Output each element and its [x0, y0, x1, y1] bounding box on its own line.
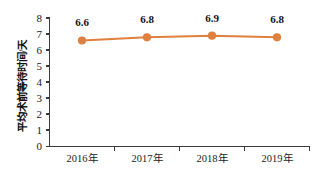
y-tick-label: 1: [37, 124, 43, 136]
data-labels: 6.6 6.8 6.9 6.8: [75, 12, 284, 29]
y-tick-label: 2: [37, 108, 43, 120]
x-tick-label: 2016年: [67, 152, 98, 164]
series-line: [82, 36, 277, 41]
y-axis-tick-labels: 8 7 6 5 4 3 2 1 0: [37, 12, 43, 152]
line-chart: 平均术前等待时间/天 8 7 6 5 4 3 2 1 0: [0, 0, 315, 176]
y-axis-title: 平均术前等待时间/天: [16, 39, 28, 133]
x-tick-label: 2018年: [197, 152, 228, 164]
y-tick-label: 0: [37, 140, 43, 152]
y-tick-label: 3: [37, 92, 43, 104]
data-point-marker: [78, 36, 86, 44]
y-tick-label: 6: [37, 44, 43, 56]
x-axis-tick-labels: 2016年 2017年 2018年 2019年: [67, 152, 293, 164]
data-point-marker: [273, 33, 281, 41]
y-tick-label: 8: [37, 12, 43, 24]
y-tick-label: 4: [37, 76, 43, 88]
y-tick-label: 5: [37, 60, 43, 72]
data-label: 6.6: [75, 16, 89, 28]
series-markers: [78, 32, 281, 45]
y-tick-label: 7: [37, 28, 43, 40]
x-tick-label: 2017年: [132, 152, 163, 164]
data-label: 6.8: [140, 13, 154, 25]
x-tick-label: 2019年: [262, 152, 293, 164]
data-label: 6.8: [270, 13, 284, 25]
data-label: 6.9: [205, 12, 219, 24]
y-axis-ticks: [46, 18, 50, 147]
x-axis-ticks: [115, 147, 310, 151]
data-point-marker: [208, 32, 216, 40]
chart-canvas: 平均术前等待时间/天 8 7 6 5 4 3 2 1 0: [0, 0, 315, 176]
data-point-marker: [143, 33, 151, 41]
